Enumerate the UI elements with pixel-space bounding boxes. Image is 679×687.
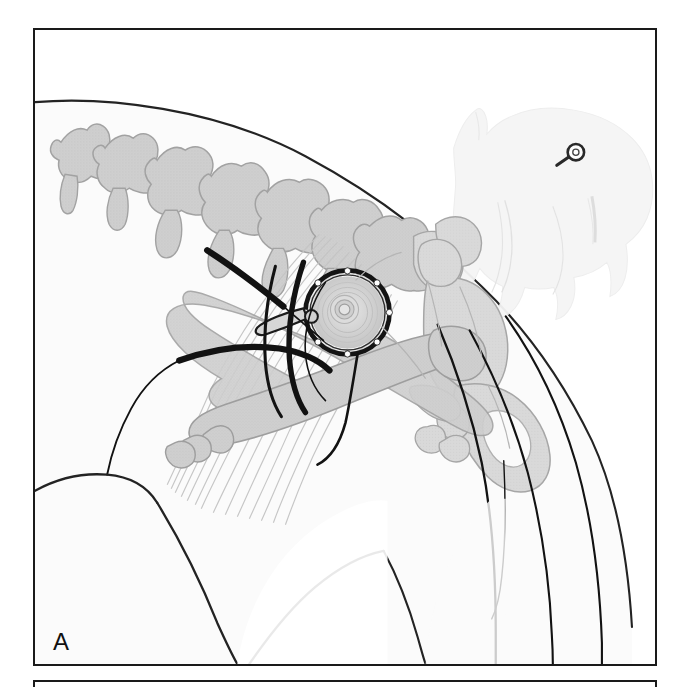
panel-a-letter: A xyxy=(53,630,70,654)
panel-a: A xyxy=(33,28,657,666)
figure-root: A xyxy=(0,0,679,687)
panel-a-illustration xyxy=(35,30,655,664)
panel-b xyxy=(33,680,657,687)
